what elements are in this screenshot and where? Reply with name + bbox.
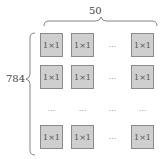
- ellipsis: ...: [131, 104, 154, 113]
- cell: 1×1: [40, 65, 63, 89]
- ellipsis: ...: [101, 72, 124, 81]
- ellipsis: ...: [101, 132, 124, 141]
- ellipsis: ...: [71, 104, 94, 113]
- cell: 1×1: [71, 65, 94, 89]
- cell: 1×1: [71, 125, 94, 149]
- ellipsis: ...: [40, 104, 63, 113]
- cell: 1×1: [131, 125, 154, 149]
- ellipsis: ...: [101, 104, 124, 113]
- cell: 1×1: [40, 125, 63, 149]
- height-label: 784: [6, 73, 25, 84]
- ellipsis: ...: [101, 40, 124, 49]
- cell: 1×1: [131, 65, 154, 89]
- cell: 1×1: [40, 33, 63, 57]
- cell: 1×1: [131, 33, 154, 57]
- cell: 1×1: [71, 33, 94, 57]
